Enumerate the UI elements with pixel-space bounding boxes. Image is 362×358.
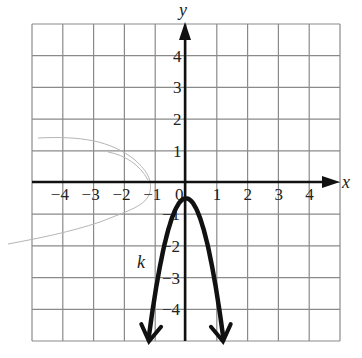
x-axis-arrow-icon — [322, 176, 340, 188]
curve-k-label: k — [137, 252, 146, 272]
x-tick-label: 2 — [244, 185, 253, 204]
x-axis-label: x — [341, 172, 350, 192]
x-tick-label: 3 — [274, 185, 283, 204]
coordinate-plane: x y −4−3−2−1012344321−1−2−3−4 k — [0, 0, 362, 358]
y-tick-label: 2 — [173, 110, 182, 129]
x-tick-label: −3 — [82, 185, 100, 204]
x-tick-label: −2 — [112, 185, 130, 204]
y-axis-arrow-icon — [179, 22, 191, 40]
y-tick-label: 4 — [173, 47, 182, 66]
y-axis-label: y — [177, 0, 187, 20]
y-tick-label: −4 — [162, 300, 181, 319]
x-tick-label: −4 — [51, 185, 70, 204]
y-tick-label: −3 — [162, 269, 180, 288]
y-tick-label: 1 — [173, 142, 182, 161]
x-tick-label: 1 — [213, 185, 222, 204]
x-tick-label: −1 — [143, 185, 161, 204]
x-tick-label: 4 — [305, 185, 314, 204]
y-tick-label: 3 — [173, 78, 182, 97]
